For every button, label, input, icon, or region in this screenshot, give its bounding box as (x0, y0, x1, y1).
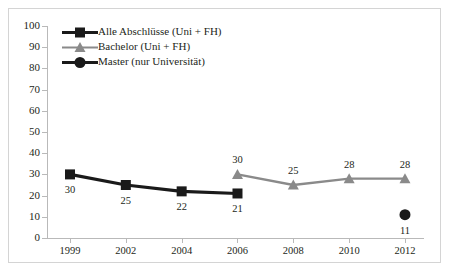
x-axis-tick-label: 2008 (265, 245, 321, 256)
y-axis-line (47, 26, 48, 239)
x-axis-tick-label: 1999 (42, 245, 98, 256)
x-tick (126, 238, 127, 243)
legend-label: Bachelor (Uni + FH) (98, 40, 190, 53)
y-axis-tick-label: 50 (2, 126, 40, 137)
y-axis-tick-label: 80 (2, 62, 40, 73)
x-axis-tick-label: 2006 (209, 245, 265, 256)
x-tick (349, 238, 350, 243)
y-axis-tick-label: 90 (2, 41, 40, 52)
legend-key (62, 40, 98, 53)
y-tick (42, 174, 47, 175)
y-axis-tick-label: 0 (2, 232, 40, 243)
y-tick (42, 153, 47, 154)
data-value-label: 11 (385, 225, 425, 236)
triangle-marker-icon (399, 173, 410, 183)
circle-marker-icon (399, 209, 410, 220)
legend-key (62, 25, 98, 38)
triangle-marker-icon (288, 180, 299, 190)
legend-label: Alle Abschlüsse (Uni + FH) (98, 25, 222, 38)
square-marker-icon (65, 169, 75, 179)
triangle-marker-icon (344, 173, 355, 183)
y-tick (42, 26, 47, 27)
data-value-label: 28 (385, 159, 425, 170)
square-marker-icon (121, 180, 131, 190)
y-axis-tick-label: 30 (2, 168, 40, 179)
data-value-label: 28 (329, 159, 369, 170)
data-value-label: 30 (50, 184, 90, 195)
y-tick (42, 111, 47, 112)
legend-label: Master (nur Universität) (98, 55, 205, 68)
y-tick (42, 238, 47, 239)
data-value-label: 25 (273, 165, 313, 176)
y-tick (42, 217, 47, 218)
square-marker-icon (232, 188, 242, 198)
chart-legend: Alle Abschlüsse (Uni + FH)Bachelor (Uni … (62, 24, 292, 69)
x-axis-line (47, 238, 424, 239)
x-axis-tick-label: 2010 (321, 245, 377, 256)
y-axis-tick-label: 60 (2, 105, 40, 116)
x-tick (237, 238, 238, 243)
data-value-label: 22 (162, 201, 202, 212)
data-value-label: 21 (217, 203, 257, 214)
chart-figure: 1009080706050403020100 19992002200420062… (0, 0, 453, 277)
x-axis-tick-label: 2002 (98, 245, 154, 256)
square-marker-icon (177, 186, 187, 196)
y-tick (42, 68, 47, 69)
y-axis-tick-label: 20 (2, 190, 40, 201)
legend-key (62, 55, 98, 68)
legend-item-2[interactable]: Bachelor (Uni + FH) (62, 39, 292, 54)
y-axis-tick-label: 10 (2, 211, 40, 222)
y-tick (42, 47, 47, 48)
legend-item-1[interactable]: Alle Abschlüsse (Uni + FH) (62, 24, 292, 39)
data-value-label: 30 (217, 154, 257, 165)
series-line (237, 174, 404, 185)
x-tick (293, 238, 294, 243)
x-tick (70, 238, 71, 243)
legend-item-3[interactable]: Master (nur Universität) (62, 54, 292, 69)
series-3 (399, 209, 410, 220)
x-tick (182, 238, 183, 243)
y-axis-tick-label: 70 (2, 84, 40, 95)
x-tick (405, 238, 406, 243)
y-tick (42, 132, 47, 133)
y-axis-tick-label: 40 (2, 147, 40, 158)
square-marker-icon (75, 28, 85, 38)
y-axis-tick-label: 100 (2, 20, 40, 31)
y-tick (42, 90, 47, 91)
data-value-label: 25 (106, 195, 146, 206)
series-2 (232, 169, 410, 190)
series-1 (65, 169, 242, 198)
y-tick (42, 196, 47, 197)
circle-marker-icon (75, 57, 86, 68)
x-axis-tick-label: 2004 (154, 245, 210, 256)
triangle-marker-icon (232, 169, 243, 179)
series-line (70, 174, 237, 193)
x-axis-tick-label: 2012 (377, 245, 433, 256)
